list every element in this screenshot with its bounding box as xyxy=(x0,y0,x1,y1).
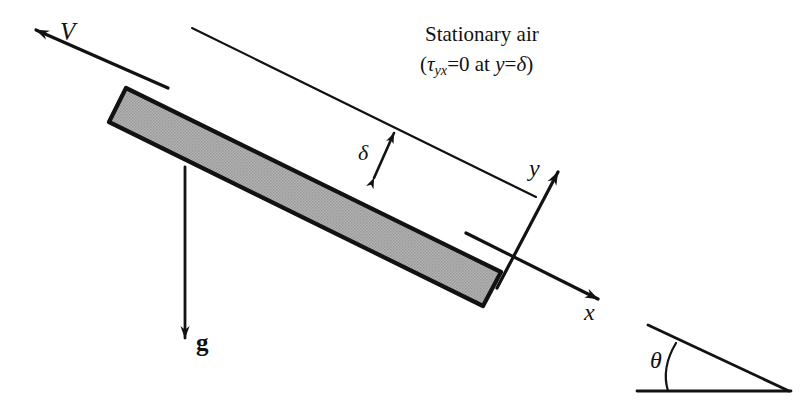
tau-symbol: τ xyxy=(427,52,435,76)
gravity-label: g xyxy=(196,330,209,355)
paren-close: ) xyxy=(526,52,533,76)
tau-subscript: yx xyxy=(435,62,448,78)
stationary-air-label: Stationary air xyxy=(425,24,539,45)
film-thickness-label: δ xyxy=(358,142,368,164)
at-word: at xyxy=(470,52,496,76)
diagram-root: V g δ x y θ Stationary air (τyx=0 at y=δ… xyxy=(0,0,809,412)
inclined-plate xyxy=(109,88,501,306)
angle-label: θ xyxy=(650,348,662,372)
velocity-label: V xyxy=(60,19,75,44)
y-axis-label: y xyxy=(529,156,540,180)
diagram-canvas xyxy=(0,0,809,412)
film-thickness-arrow xyxy=(374,133,394,178)
velocity-vector-arrow xyxy=(36,30,168,88)
equals-sign: = xyxy=(505,52,517,76)
delta-symbol: δ xyxy=(516,52,526,76)
paren-open: ( xyxy=(420,52,427,76)
tau-equals-zero: =0 xyxy=(447,52,469,76)
x-axis-label: x xyxy=(584,300,595,324)
y-symbol: y xyxy=(495,52,504,76)
shear-condition-label: (τyx=0 at y=δ) xyxy=(420,54,533,77)
